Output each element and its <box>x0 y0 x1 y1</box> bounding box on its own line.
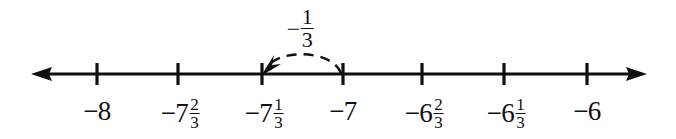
tick-label-neg-8: −8 <box>83 96 111 125</box>
tick-label-fraction: 13 <box>515 96 525 132</box>
jump-arc-label: −13 <box>287 6 314 52</box>
tick-label-whole: −6 <box>487 100 515 127</box>
tick-label-neg-6: −6 <box>573 96 601 125</box>
axis-right-arrowhead <box>626 67 647 81</box>
tick-label-whole: −7 <box>329 98 357 125</box>
tick-label-whole: −8 <box>83 98 111 125</box>
fraction-numerator: 1 <box>515 96 525 114</box>
jump-arc-label-fraction: 13 <box>301 6 314 52</box>
axis-left-arrowhead <box>31 67 52 81</box>
number-line-figure: −8 −723 −713 −7 −623 −613 −6 −13 <box>0 0 676 139</box>
tick-label-neg-7-1-3: −713 <box>245 96 284 132</box>
jump-arc <box>266 54 341 73</box>
fraction-denominator: 3 <box>273 114 283 131</box>
fraction-numerator: 1 <box>273 96 283 114</box>
jump-arc-label-minus: − <box>287 17 300 41</box>
tick-label-fraction: 23 <box>189 96 199 132</box>
tick-label-whole: −7 <box>161 100 189 127</box>
fraction-denominator: 3 <box>433 114 443 131</box>
fraction-numerator: 2 <box>189 96 199 114</box>
fraction-numerator: 2 <box>433 96 443 114</box>
tick-label-whole: −6 <box>405 100 433 127</box>
tick-label-fraction: 13 <box>273 96 283 132</box>
tick-label-whole: −6 <box>573 98 601 125</box>
tick-label-neg-6-1-3: −613 <box>487 96 526 132</box>
fraction-denominator: 3 <box>515 114 525 131</box>
tick-label-neg-7: −7 <box>329 96 357 125</box>
tick-label-neg-7-2-3: −723 <box>161 96 200 132</box>
fraction-numerator: 1 <box>301 6 314 29</box>
tick-label-whole: −7 <box>245 100 273 127</box>
fraction-denominator: 3 <box>189 114 199 131</box>
tick-label-fraction: 23 <box>433 96 443 132</box>
fraction-denominator: 3 <box>301 29 314 51</box>
tick-label-neg-6-2-3: −623 <box>405 96 444 132</box>
